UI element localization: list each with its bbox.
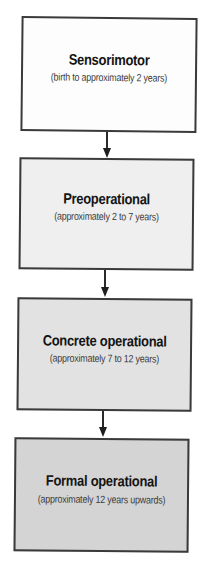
stage-age-range: (birth to approximately 2 years)	[37, 70, 182, 84]
arrow-down-icon	[101, 287, 109, 297]
stage-age-range: (approximately 7 to 12 years)	[33, 351, 177, 364]
stage-box-concrete-operational: Concrete operational (approximately 7 to…	[17, 297, 193, 412]
arrow-down-icon	[99, 427, 107, 437]
arrow-down-icon	[103, 148, 111, 158]
stage-box-preoperational: Preoperational (approximately 2 to 7 yea…	[19, 157, 195, 271]
stage-title: Preoperational	[33, 189, 180, 207]
stage-title: Sensorimotor	[35, 50, 183, 69]
stage-title: Concrete operational	[31, 331, 178, 349]
stage-box-sensorimotor: Sensorimotor (birth to approximately 2 y…	[20, 16, 197, 133]
stage-age-range: (approximately 2 to 7 years)	[35, 209, 179, 222]
stage-age-range: (approximately 12 years upwards)	[30, 492, 174, 505]
stage-box-formal-operational: Formal operational (approximately 12 yea…	[14, 437, 190, 553]
stage-title: Formal operational	[28, 471, 175, 489]
